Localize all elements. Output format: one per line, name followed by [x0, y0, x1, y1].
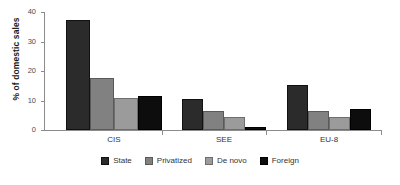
y-tick-label-0: 0	[10, 126, 36, 134]
legend-item-privatized[interactable]: Privatized	[145, 156, 192, 165]
y-tick-mark-10	[41, 101, 44, 102]
bar-see-de-novo[interactable]	[224, 117, 245, 130]
bar-see-state[interactable]	[182, 99, 203, 130]
legend-item-state[interactable]: State	[101, 156, 132, 165]
bar-eu8-de-novo[interactable]	[329, 117, 350, 130]
y-tick-mark-20	[41, 71, 44, 72]
y-tick-mark-40	[41, 12, 44, 13]
legend-item-foreign[interactable]: Foreign	[260, 156, 299, 165]
legend-item-de-novo[interactable]: De novo	[205, 156, 247, 165]
y-tick-label-20: 20	[10, 67, 36, 75]
y-tick-mark-30	[41, 42, 44, 43]
y-tick-label-30: 30	[10, 38, 36, 46]
legend-label-state: State	[113, 156, 132, 165]
y-tick-mark-0	[41, 130, 44, 131]
x-axis-separator-3	[381, 130, 382, 135]
bar-see-foreign[interactable]	[245, 127, 266, 130]
bar-cis-privatized[interactable]	[90, 78, 114, 130]
bar-group-eu8	[287, 12, 371, 130]
legend-label-foreign: Foreign	[272, 156, 299, 165]
bar-group-see	[182, 12, 266, 130]
bar-cis-state[interactable]	[66, 20, 90, 130]
bar-cis-foreign[interactable]	[138, 96, 162, 130]
y-axis-line	[44, 12, 45, 130]
y-tick-label-10: 10	[10, 97, 36, 105]
legend-swatch-foreign-icon	[260, 157, 268, 165]
x-tick-label-eu8: EU-8	[287, 135, 371, 144]
x-tick-label-see: SEE	[182, 135, 266, 144]
bar-eu8-privatized[interactable]	[308, 111, 329, 130]
y-tick-label-40: 40	[10, 8, 36, 16]
legend-label-de-novo: De novo	[217, 156, 247, 165]
bar-see-privatized[interactable]	[203, 111, 224, 130]
chart-legend: State Privatized De novo Foreign	[0, 156, 400, 165]
bar-eu8-foreign[interactable]	[350, 109, 371, 131]
bar-group-cis	[66, 12, 162, 130]
x-axis-separator-1	[162, 130, 163, 135]
legend-swatch-privatized-icon	[145, 157, 153, 165]
bar-chart-figure: % of domestic sales 40 30 20 10 0 CIS	[0, 0, 400, 185]
bar-cis-de-novo[interactable]	[114, 98, 138, 131]
x-axis-separator-2	[266, 130, 267, 135]
legend-label-privatized: Privatized	[157, 156, 192, 165]
x-axis-line	[44, 130, 382, 131]
bar-eu8-state[interactable]	[287, 85, 308, 130]
x-tick-label-cis: CIS	[66, 135, 162, 144]
legend-swatch-de-novo-icon	[205, 157, 213, 165]
legend-swatch-state-icon	[101, 157, 109, 165]
plot-area: 40 30 20 10 0 CIS SEE	[44, 12, 382, 130]
